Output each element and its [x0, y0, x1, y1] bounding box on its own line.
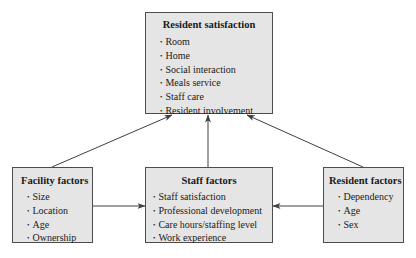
list-item: Work experience — [153, 232, 272, 246]
list-item: Resident involvement — [160, 105, 272, 119]
list-item: Room — [160, 36, 272, 50]
list-item: Age — [27, 219, 92, 233]
list-item: Staff care — [160, 91, 272, 105]
staff-factors-title: Staff factors — [146, 174, 272, 187]
resident-satisfaction-list: Room Home Social interaction Meals servi… — [160, 36, 272, 119]
list-item: Home — [160, 50, 272, 64]
arrow-resident-to-satisfaction — [247, 115, 363, 167]
facility-factors-title: Facility factors — [21, 174, 92, 187]
facility-factors-list: Size Location Age Ownership — [27, 191, 92, 246]
facility-factors-box: Facility factors Size Location Age Owner… — [12, 167, 93, 243]
staff-factors-list: Staff satisfaction Professional developm… — [153, 191, 272, 246]
list-item: Ownership — [27, 232, 92, 246]
resident-factors-title: Resident factors — [329, 174, 403, 187]
list-item: Age — [338, 205, 403, 219]
list-item: Size — [27, 191, 92, 205]
arrow-facility-to-satisfaction — [52, 115, 172, 167]
list-item: Care hours/staffing level — [153, 219, 272, 233]
staff-factors-box: Staff factors Staff satisfaction Profess… — [145, 167, 273, 243]
list-item: Professional development — [153, 205, 272, 219]
list-item: Location — [27, 205, 92, 219]
resident-satisfaction-title: Resident satisfaction — [146, 18, 272, 31]
resident-factors-list: Dependency Age Sex — [338, 191, 403, 232]
list-item: Social interaction — [160, 64, 272, 78]
list-item: Sex — [338, 219, 403, 233]
list-item: Meals service — [160, 77, 272, 91]
list-item: Staff satisfaction — [153, 191, 272, 205]
list-item: Dependency — [338, 191, 403, 205]
resident-factors-box: Resident factors Dependency Age Sex — [323, 167, 404, 243]
resident-satisfaction-box: Resident satisfaction Room Home Social i… — [145, 12, 273, 114]
